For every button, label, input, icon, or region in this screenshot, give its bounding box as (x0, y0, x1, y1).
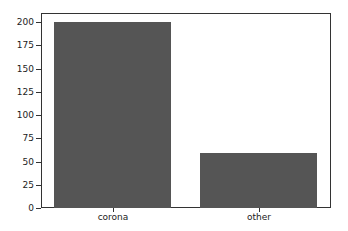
y-tick (36, 208, 41, 209)
y-tick (36, 185, 41, 186)
x-tick-label: other (247, 212, 271, 222)
y-tick-label: 50 (23, 157, 34, 167)
y-tick (36, 45, 41, 46)
y-tick (36, 162, 41, 163)
y-tick-label: 125 (17, 87, 34, 97)
y-tick-label: 0 (28, 203, 34, 213)
y-tick-label: 200 (17, 17, 34, 27)
y-tick (36, 22, 41, 23)
x-tick-label: corona (98, 212, 129, 222)
bar-other (200, 153, 317, 208)
y-tick (36, 115, 41, 116)
bar-corona (54, 22, 171, 208)
y-tick-label: 75 (23, 133, 34, 143)
y-tick-label: 100 (17, 110, 34, 120)
y-tick (36, 92, 41, 93)
y-tick-label: 25 (23, 180, 34, 190)
y-tick (36, 69, 41, 70)
y-tick-label: 150 (17, 64, 34, 74)
y-tick (36, 138, 41, 139)
y-tick-label: 175 (17, 40, 34, 50)
